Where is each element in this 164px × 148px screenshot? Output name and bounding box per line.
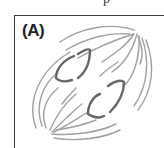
chromosome-upper-right xyxy=(78,49,90,78)
chromosome-lower-right xyxy=(108,81,124,112)
chromosome-lower-left xyxy=(88,94,104,117)
chromosomes xyxy=(56,49,124,117)
spindle-fibers xyxy=(33,26,152,139)
spindle-diagram xyxy=(0,0,164,148)
